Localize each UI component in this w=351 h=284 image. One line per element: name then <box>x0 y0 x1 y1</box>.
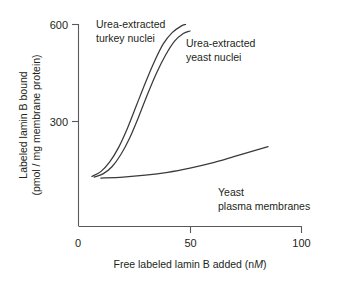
annotation-turkey-line1: Urea-extracted <box>96 18 166 30</box>
y-axis-title-line2: (pmol / mg membrane protein) <box>30 54 42 195</box>
y-axis-title: Labeled lamin B bound (pmol / mg membran… <box>17 54 42 195</box>
x-axis-title-italic: M <box>254 258 263 270</box>
y-axis-title-line1: Labeled lamin B bound <box>17 71 29 179</box>
curve-yeast-plasma-membranes <box>101 147 268 178</box>
annotation-plasma-line1: Yeast <box>218 186 244 198</box>
annotation-yeast-nuclei: Urea-extracted yeast nuclei <box>186 37 256 63</box>
annotation-turkey: Urea-extracted turkey nuclei <box>96 18 166 44</box>
x-tick-label-100: 100 <box>292 237 310 249</box>
annotation-plasma-line2: plasma membranes <box>218 200 310 212</box>
y-tick-label-300: 300 <box>50 116 68 128</box>
y-tick-label-600: 600 <box>50 19 68 31</box>
annotation-yeast-line2: yeast nuclei <box>186 51 241 63</box>
x-tick-label-0: 0 <box>75 237 81 249</box>
curve-urea-extracted-turkey-nuclei <box>92 25 186 177</box>
annotation-plasma-membranes: Yeast plasma membranes <box>218 186 310 212</box>
annotation-yeast-line1: Urea-extracted <box>186 37 256 49</box>
x-axis-title-prefix: Free labeled lamin B added (n <box>114 258 255 270</box>
curve-urea-extracted-yeast-nuclei <box>94 31 190 177</box>
x-tick-label-50: 50 <box>184 237 196 249</box>
annotation-turkey-line2: turkey nuclei <box>96 32 155 44</box>
x-axis-title: Free labeled lamin B added (nM) <box>114 258 267 270</box>
chart-figure: 600 300 0 50 100 Labeled lamin B bound (… <box>0 0 351 284</box>
x-axis-title-suffix: ) <box>263 258 267 270</box>
binding-curve-chart: 600 300 0 50 100 Labeled lamin B bound (… <box>0 0 351 284</box>
